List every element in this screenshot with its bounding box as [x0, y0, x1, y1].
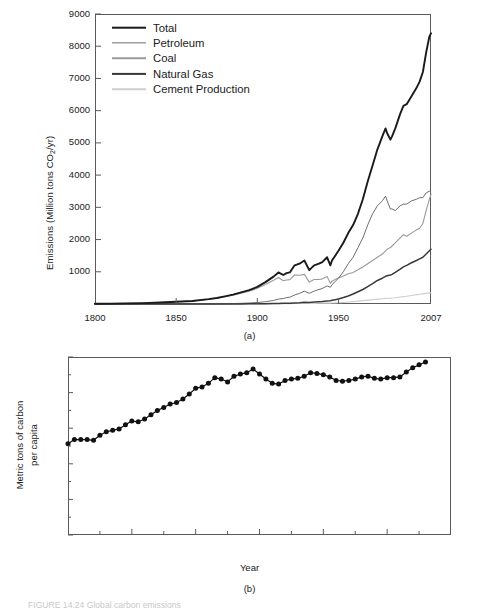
panel-b-y-axis-label-line1: Metric tons of carbon: [14, 401, 25, 490]
panel-a-x-tick-label: 1950: [316, 312, 360, 323]
panel-a-y-tick-label: 1000: [47, 265, 90, 276]
legend-item-label: Natural Gas: [153, 68, 213, 80]
panel-b: Metric tons of carbon per capita 0.000.2…: [0, 345, 499, 610]
panel-b-y-axis-label-2: per capita: [28, 360, 39, 530]
legend-item-label: Coal: [153, 52, 176, 64]
legend-swatch-line-icon: [112, 37, 146, 49]
legend-item-label: Total: [153, 22, 177, 34]
panel-a-label: (a): [0, 330, 499, 341]
panel-a-legend: TotalPetroleumCoalNatural GasCement Prod…: [112, 20, 250, 97]
panel-a-y-tick-label: 3000: [47, 201, 90, 212]
legend-item-label: Cement Production: [153, 83, 250, 95]
panel-a-y-axis-label-subscript: 2: [49, 150, 56, 154]
panel-b-y-axis-label-line2: per capita: [28, 424, 39, 466]
legend-swatch-line-icon: [112, 83, 146, 95]
panel-b-label: (b): [0, 583, 499, 594]
panel-a-x-tick-label: 1800: [73, 312, 117, 323]
panel-a-x-tick-label: 2007: [409, 312, 453, 323]
legend-item-label: Petroleum: [153, 37, 205, 49]
legend-swatch-line-icon: [112, 22, 146, 34]
legend-swatch-line-icon: [112, 52, 146, 64]
panel-a-y-tick-label: 9000: [47, 8, 90, 19]
panel-a-y-tick-label: 7000: [47, 72, 90, 83]
panel-a-y-tick-label: 4000: [47, 169, 90, 180]
panel-b-tick-marks: [68, 357, 451, 535]
figure-caption: FIGURE 14.24 Global carbon emissions: [28, 600, 498, 610]
legend-item-cement-production: Cement Production: [112, 82, 250, 97]
panel-a-y-tick-label: 2000: [47, 233, 90, 244]
figure-container: Emissions (Million tons CO2/yr) 10002000…: [0, 0, 499, 610]
panel-a-y-tick-label: 5000: [47, 136, 90, 147]
panel-a: Emissions (Million tons CO2/yr) 10002000…: [0, 0, 499, 345]
panel-a-x-tick-label: 1900: [235, 312, 279, 323]
legend-item-coal: Coal: [112, 51, 250, 66]
legend-item-natural-gas: Natural Gas: [112, 66, 250, 81]
panel-a-y-tick-label: 6000: [47, 104, 90, 115]
legend-item-petroleum: Petroleum: [112, 35, 250, 50]
legend-swatch-line-icon: [112, 68, 146, 80]
panel-a-y-tick-label: 8000: [47, 40, 90, 51]
panel-a-x-tick-label: 1850: [154, 312, 198, 323]
legend-item-total: Total: [112, 20, 250, 35]
panel-b-y-axis-label: Metric tons of carbon: [14, 360, 25, 530]
panel-b-x-axis-title: Year: [0, 562, 499, 573]
